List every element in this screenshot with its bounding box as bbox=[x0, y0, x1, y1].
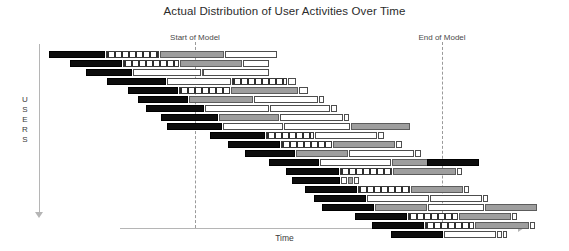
bar-segment-outlined-white-activity bbox=[396, 141, 402, 148]
bar-row bbox=[0, 186, 569, 193]
bar-segment-dashed-pattern-activity bbox=[340, 168, 392, 175]
bar-segment-solid-black-activity bbox=[107, 78, 166, 85]
bar-row bbox=[0, 213, 569, 220]
bar-segment-solid-black-activity bbox=[269, 159, 319, 166]
bar-segment-solid-gray-activity bbox=[160, 51, 224, 58]
bar-segment-outlined-white-activity bbox=[133, 69, 201, 76]
bar-segment-solid-gray-activity bbox=[296, 150, 348, 157]
bar-segment-outlined-white-activity bbox=[223, 123, 283, 130]
bars-layer bbox=[0, 0, 569, 251]
bar-segment-outlined-white-activity bbox=[430, 195, 482, 202]
bar-row bbox=[0, 159, 569, 166]
bar-segment-solid-black-activity bbox=[292, 177, 340, 184]
bar-segment-solid-gray-activity bbox=[189, 96, 253, 103]
bar-row bbox=[0, 132, 569, 139]
bar-segment-dashed-pattern-activity bbox=[232, 78, 287, 85]
bar-segment-outlined-white-activity bbox=[457, 168, 462, 175]
bar-segment-dashed-pattern-activity bbox=[358, 186, 410, 193]
bar-segment-dashed-pattern-activity bbox=[281, 141, 332, 148]
bar-segment-outlined-white-activity bbox=[319, 96, 324, 103]
bar-segment-dashed-pattern-activity bbox=[425, 222, 474, 229]
bar-row bbox=[0, 231, 569, 238]
bar-segment-solid-black-activity bbox=[372, 222, 424, 229]
bar-segment-outlined-white-activity bbox=[299, 87, 308, 94]
bar-segment-solid-black-activity bbox=[322, 204, 374, 211]
bar-segment-outlined-white-activity bbox=[428, 204, 484, 211]
bar-segment-solid-black-activity bbox=[146, 105, 204, 112]
bar-row bbox=[0, 204, 569, 211]
bar-segment-outlined-white-activity bbox=[530, 222, 535, 229]
bar-row bbox=[0, 87, 569, 94]
bar-segment-outlined-white-activity bbox=[167, 78, 231, 85]
bar-segment-outlined-white-activity bbox=[280, 114, 343, 121]
bar-segment-outlined-white-activity bbox=[503, 231, 507, 238]
bar-segment-solid-gray-activity bbox=[459, 213, 511, 220]
bar-segment-solid-gray-activity bbox=[485, 204, 537, 211]
bar-row bbox=[0, 150, 569, 157]
bar-row bbox=[0, 168, 569, 175]
bar-segment-outlined-white-activity bbox=[464, 186, 469, 193]
bar-segment-solid-black-activity bbox=[138, 96, 188, 103]
chart-canvas: Actual Distribution of User Activities O… bbox=[0, 0, 569, 251]
bar-segment-outlined-white-activity bbox=[254, 96, 318, 103]
bar-segment-outlined-white-activity bbox=[225, 51, 277, 58]
bar-segment-solid-gray-activity bbox=[180, 60, 242, 67]
bar-row bbox=[0, 195, 569, 202]
bar-segment-outlined-white-activity bbox=[483, 195, 488, 202]
bar-segment-outlined-white-activity bbox=[341, 177, 347, 184]
bar-row bbox=[0, 60, 569, 67]
bar-segment-outlined-white-activity bbox=[367, 195, 429, 202]
bar-segment-solid-black-activity bbox=[391, 231, 443, 238]
bar-segment-outlined-white-activity bbox=[205, 105, 269, 112]
bar-row bbox=[0, 114, 569, 121]
bar-segment-outlined-white-activity bbox=[378, 132, 384, 139]
bar-segment-solid-black-activity bbox=[286, 168, 339, 175]
bar-row bbox=[0, 96, 569, 103]
bar-segment-outlined-white-activity bbox=[315, 132, 377, 139]
bar-segment-solid-black-activity bbox=[49, 51, 105, 58]
bar-segment-solid-gray-activity bbox=[333, 141, 395, 148]
bar-segment-solid-gray-activity bbox=[375, 204, 427, 211]
bar-segment-solid-black-activity bbox=[128, 87, 178, 94]
bar-segment-outlined-white-activity bbox=[415, 150, 421, 157]
bar-segment-outlined-white-activity bbox=[331, 105, 337, 112]
bar-segment-outlined-white-activity bbox=[444, 231, 496, 238]
bar-segment-solid-black-activity bbox=[70, 60, 122, 67]
bar-segment-solid-gray-activity bbox=[348, 177, 353, 184]
bar-segment-solid-gray-activity bbox=[475, 222, 529, 229]
bar-segment-solid-black-activity bbox=[167, 123, 222, 130]
bar-segment-solid-gray-activity bbox=[351, 123, 410, 130]
bar-row bbox=[0, 177, 569, 184]
bar-segment-solid-black-activity bbox=[427, 159, 479, 166]
bar-segment-solid-black-activity bbox=[161, 114, 218, 121]
bar-row bbox=[0, 51, 569, 58]
bar-segment-dashed-pattern-activity bbox=[123, 60, 179, 67]
bar-segment-solid-black-activity bbox=[305, 186, 357, 193]
bar-row bbox=[0, 105, 569, 112]
bar-segment-outlined-white-activity bbox=[288, 78, 296, 85]
bar-row bbox=[0, 141, 569, 148]
bar-segment-dashed-pattern-activity bbox=[179, 87, 230, 94]
bar-segment-outlined-white-activity bbox=[497, 231, 502, 238]
bar-row bbox=[0, 123, 569, 130]
bar-segment-dashed-pattern-activity bbox=[106, 51, 159, 58]
bar-segment-outlined-white-activity bbox=[320, 159, 391, 166]
bar-segment-outlined-white-activity bbox=[512, 213, 517, 220]
bar-segment-solid-black-activity bbox=[245, 150, 295, 157]
bar-segment-outlined-white-activity bbox=[284, 123, 350, 130]
bar-segment-solid-gray-activity bbox=[231, 87, 298, 94]
bar-segment-outlined-white-activity bbox=[344, 114, 349, 121]
bar-segment-solid-black-activity bbox=[86, 69, 132, 76]
bar-segment-outlined-white-activity bbox=[270, 105, 330, 112]
bar-segment-solid-black-activity bbox=[228, 141, 280, 148]
bar-segment-dashed-pattern-activity bbox=[266, 132, 314, 139]
bar-segment-outlined-white-activity bbox=[243, 60, 269, 67]
bar-row bbox=[0, 222, 569, 229]
bar-row bbox=[0, 78, 569, 85]
bar-segment-outlined-white-activity bbox=[203, 69, 269, 76]
bar-segment-outlined-white-activity bbox=[354, 177, 359, 184]
bar-segment-solid-black-activity bbox=[210, 132, 265, 139]
bar-segment-dashed-pattern-activity bbox=[408, 213, 458, 220]
bar-segment-solid-gray-activity bbox=[411, 186, 463, 193]
bar-segment-solid-black-activity bbox=[355, 213, 407, 220]
